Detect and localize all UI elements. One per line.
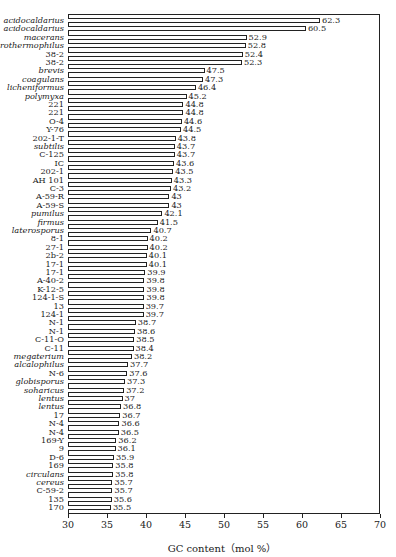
bar <box>68 270 145 275</box>
x-tick-label: 50 <box>209 519 239 530</box>
x-tick-mark <box>68 514 69 518</box>
bar <box>68 388 124 393</box>
category-label: 170 <box>48 502 64 512</box>
value-label: 60.5 <box>308 23 326 33</box>
bar <box>68 18 320 23</box>
x-tick-mark <box>263 514 264 518</box>
bar <box>68 102 183 107</box>
bar <box>68 26 306 31</box>
x-tick-label: 55 <box>248 519 278 530</box>
x-tick-mark <box>302 514 303 518</box>
bar <box>68 178 172 183</box>
bar <box>68 211 162 216</box>
bar <box>68 220 158 225</box>
bar <box>68 43 246 48</box>
bar <box>68 295 144 300</box>
x-tick-label: 35 <box>92 519 122 530</box>
x-tick-mark <box>185 514 186 518</box>
bar <box>68 480 112 485</box>
bar <box>68 136 176 141</box>
bar <box>68 144 175 149</box>
bar <box>68 94 187 99</box>
bar <box>68 253 147 258</box>
bar <box>68 446 116 451</box>
value-label: 35.5 <box>113 502 131 512</box>
bar <box>68 169 173 174</box>
x-tick-label: 40 <box>131 519 161 530</box>
bar <box>68 194 169 199</box>
x-tick-label: 70 <box>365 519 395 530</box>
x-tick-label: 60 <box>287 519 317 530</box>
bar <box>68 68 205 73</box>
bar <box>68 110 183 115</box>
bar <box>68 262 147 267</box>
bar <box>68 127 181 132</box>
bar <box>68 354 132 359</box>
bar <box>68 362 128 367</box>
bar <box>68 52 243 57</box>
bar <box>68 404 121 409</box>
x-tick-mark <box>224 514 225 518</box>
bar <box>68 186 171 191</box>
bar <box>68 396 123 401</box>
bar <box>68 287 144 292</box>
bar <box>68 488 112 493</box>
bar <box>68 430 119 435</box>
bar <box>68 413 120 418</box>
x-tick-label: 30 <box>53 519 83 530</box>
bar <box>68 329 135 334</box>
bar <box>68 371 127 376</box>
x-tick-mark <box>380 514 381 518</box>
bar <box>68 304 144 309</box>
x-tick-label: 65 <box>326 519 356 530</box>
bar <box>68 85 196 90</box>
x-tick-label: 45 <box>170 519 200 530</box>
x-tick-mark <box>146 514 147 518</box>
x-tick-mark <box>107 514 108 518</box>
value-label: 52.3 <box>244 57 262 67</box>
bar <box>68 278 144 283</box>
bar <box>68 463 113 468</box>
bar <box>68 228 151 233</box>
bar-row: 17035.5 <box>0 504 396 512</box>
bar <box>68 35 247 40</box>
bar <box>68 236 148 241</box>
bar <box>68 152 175 157</box>
x-axis-label: GC content（mol %） <box>0 540 396 555</box>
bar <box>68 497 112 502</box>
x-tick-mark <box>341 514 342 518</box>
bar <box>68 438 116 443</box>
bar <box>68 505 111 510</box>
bar <box>68 203 169 208</box>
bar <box>68 337 134 342</box>
bar <box>68 119 182 124</box>
bar <box>68 346 134 351</box>
bar <box>68 245 148 250</box>
bar <box>68 455 114 460</box>
bar <box>68 77 203 82</box>
bar <box>68 161 174 166</box>
bar <box>68 421 119 426</box>
bar <box>68 312 144 317</box>
bar <box>68 379 125 384</box>
gc-content-bar-chart: acidocaldarius62.3acidocaldarius60.5mace… <box>0 0 396 557</box>
bar <box>68 472 113 477</box>
bar <box>68 320 136 325</box>
bar <box>68 60 242 65</box>
